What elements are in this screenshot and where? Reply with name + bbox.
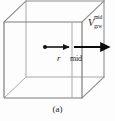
velocity-subscript: grw [94, 24, 102, 30]
velocity-superscript: mid [94, 15, 102, 21]
cube-edge-depth-top-left [4, 1, 26, 22]
center-point-dot [43, 45, 47, 49]
cube-edge-depth-bottom-right [82, 77, 104, 98]
cube-edge-depth-bottom-left [4, 77, 26, 98]
mid-plane-label: mid [70, 55, 82, 63]
figure-caption: (a) [0, 104, 115, 114]
figure-container: r mid Vmidgrw (a) [0, 0, 115, 121]
velocity-label: Vmidgrw [88, 18, 94, 28]
cube-depth-edges [4, 1, 104, 98]
radius-label: r [57, 54, 61, 63]
